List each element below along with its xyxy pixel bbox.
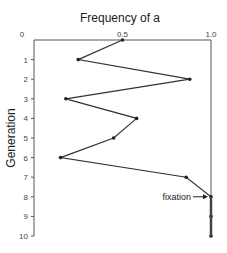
y-axis-ticks: 12345678910 <box>19 56 34 241</box>
data-point <box>64 97 68 101</box>
y-tick-label: 6 <box>24 154 29 163</box>
series-line <box>61 40 211 236</box>
x-tick-label: 1.0 <box>205 30 217 39</box>
y-tick-label: 2 <box>24 75 29 84</box>
annotations: fixation <box>162 192 208 202</box>
fixation-label: fixation <box>162 192 191 202</box>
chart-title: Frequency of a <box>80 11 160 25</box>
plot-frame <box>34 40 211 236</box>
data-point <box>121 38 125 42</box>
arrowhead-icon <box>203 194 208 199</box>
y-tick-label: 3 <box>24 95 29 104</box>
y-tick-label: 5 <box>24 134 29 143</box>
data-point <box>59 156 63 160</box>
data-point <box>76 58 80 62</box>
x-tick-label: 0 <box>20 30 25 39</box>
data-series <box>59 38 213 238</box>
frequency-chart: Frequency of a 00.51.0 12345678910 Gener… <box>0 0 227 253</box>
y-tick-label: 8 <box>24 193 29 202</box>
x-tick-label: 0.5 <box>117 30 129 39</box>
data-point <box>184 175 188 179</box>
data-point <box>112 136 116 140</box>
y-tick-label: 9 <box>24 212 29 221</box>
y-tick-label: 1 <box>24 56 29 65</box>
x-axis-ticks: 00.51.0 <box>20 30 217 39</box>
y-tick-label: 10 <box>19 232 28 241</box>
y-axis-label: Generation <box>4 108 18 167</box>
data-point <box>135 117 139 121</box>
data-point <box>188 77 192 81</box>
y-tick-label: 7 <box>24 173 29 182</box>
y-tick-label: 4 <box>24 114 29 123</box>
